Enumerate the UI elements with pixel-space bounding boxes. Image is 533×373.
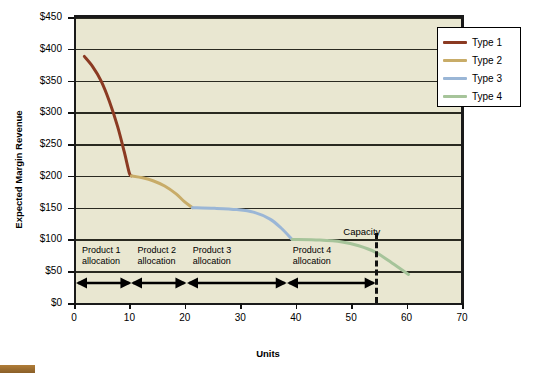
y-tick-label: $250 bbox=[16, 139, 62, 149]
plot-area: CapacityProduct 1allocationProduct 2allo… bbox=[74, 17, 464, 305]
legend-item-type-1[interactable]: Type 1 bbox=[438, 33, 520, 51]
y-tick-label: $150 bbox=[16, 203, 62, 213]
x-axis-title: Units bbox=[74, 348, 462, 359]
legend-item-type-3[interactable]: Type 3 bbox=[438, 69, 520, 87]
legend-swatch-icon bbox=[443, 95, 467, 98]
x-tick-label: 30 bbox=[225, 312, 255, 323]
allocation-arrow-4 bbox=[287, 275, 376, 291]
x-tick-mark bbox=[240, 303, 242, 309]
x-tick-label: 70 bbox=[447, 312, 477, 323]
series-lines bbox=[76, 17, 464, 303]
x-tick-mark bbox=[351, 303, 353, 309]
x-tick-mark bbox=[462, 303, 464, 309]
legend-label: Type 2 bbox=[472, 55, 502, 66]
chart-legend: Type 1Type 2Type 3Type 4 bbox=[437, 27, 521, 107]
x-tick-mark bbox=[296, 303, 298, 309]
plot-border-top bbox=[74, 15, 464, 18]
allocation-label-2: Product 2allocation bbox=[137, 245, 176, 267]
y-axis-title: Expected Margin Revenue bbox=[13, 100, 24, 240]
allocation-label-line1: Product 4 bbox=[293, 245, 332, 256]
y-tick-label: $50 bbox=[16, 266, 62, 276]
legend-label: Type 1 bbox=[472, 37, 502, 48]
x-tick-label: 20 bbox=[170, 312, 200, 323]
y-tick-label: $200 bbox=[16, 171, 62, 181]
series-line-type-2 bbox=[131, 176, 192, 208]
allocation-label-4: Product 4allocation bbox=[293, 245, 332, 267]
x-tick-label: 50 bbox=[336, 312, 366, 323]
legend-item-type-4[interactable]: Type 4 bbox=[438, 87, 520, 105]
capacity-line bbox=[375, 233, 378, 303]
allocation-label-line1: Product 1 bbox=[82, 245, 121, 256]
series-line-type-1 bbox=[84, 56, 131, 175]
allocation-arrow-2 bbox=[131, 275, 186, 291]
x-tick-mark bbox=[74, 303, 76, 309]
legend-item-type-2[interactable]: Type 2 bbox=[438, 51, 520, 69]
legend-label: Type 4 bbox=[472, 91, 502, 102]
x-tick-label: 60 bbox=[392, 312, 422, 323]
allocation-label-3: Product 3allocation bbox=[193, 245, 232, 267]
x-tick-label: 10 bbox=[114, 312, 144, 323]
allocation-label-line2: allocation bbox=[293, 256, 332, 267]
legend-swatch-icon bbox=[443, 41, 467, 44]
capacity-label: Capacity bbox=[343, 226, 380, 237]
allocation-label-line1: Product 3 bbox=[193, 245, 232, 256]
x-tick-label: 40 bbox=[281, 312, 311, 323]
allocation-label-line2: allocation bbox=[82, 256, 121, 267]
allocation-label-line1: Product 2 bbox=[137, 245, 176, 256]
y-tick-label: $400 bbox=[16, 44, 62, 54]
allocation-label-1: Product 1allocation bbox=[82, 245, 121, 267]
x-tick-mark bbox=[185, 303, 187, 309]
chart-figure: Expected Margin Revenue $0$50$100$150$20… bbox=[0, 0, 533, 373]
y-tick-label: $350 bbox=[16, 76, 62, 86]
allocation-label-line2: allocation bbox=[193, 256, 232, 267]
allocation-label-line2: allocation bbox=[137, 256, 176, 267]
x-tick-mark bbox=[129, 303, 131, 309]
y-tick-label: $100 bbox=[16, 234, 62, 244]
page-edge-strip bbox=[0, 365, 35, 373]
legend-label: Type 3 bbox=[472, 73, 502, 84]
y-tick-label: $450 bbox=[16, 12, 62, 22]
x-tick-label: 0 bbox=[59, 312, 89, 323]
legend-swatch-icon bbox=[443, 59, 467, 62]
x-tick-mark bbox=[407, 303, 409, 309]
y-tick-label: $0 bbox=[16, 298, 62, 308]
series-line-type-3 bbox=[192, 208, 292, 240]
y-tick-label: $300 bbox=[16, 107, 62, 117]
allocation-arrow-3 bbox=[187, 275, 287, 291]
legend-swatch-icon bbox=[443, 77, 467, 80]
allocation-arrow-1 bbox=[76, 275, 131, 291]
